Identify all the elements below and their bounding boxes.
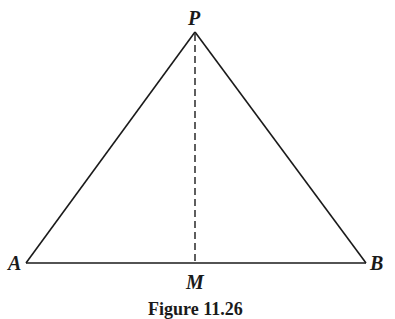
label-m: M bbox=[186, 272, 204, 292]
label-p: P bbox=[188, 8, 200, 28]
label-a: A bbox=[8, 253, 21, 273]
label-b: B bbox=[370, 253, 383, 273]
figure-caption: Figure 11.26 bbox=[148, 300, 243, 318]
side-pb bbox=[195, 32, 366, 263]
side-pa bbox=[26, 32, 195, 263]
